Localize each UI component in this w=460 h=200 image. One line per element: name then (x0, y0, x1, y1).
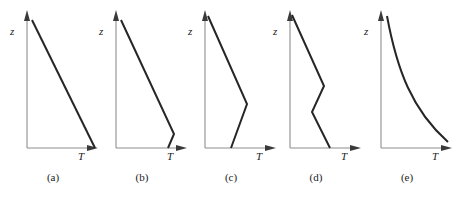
axis-label-z-d: z (273, 26, 277, 37)
z-axis-arrowhead-c (202, 10, 208, 21)
panel-caption-c: (c) (186, 172, 276, 183)
profile-curve-b (121, 20, 174, 148)
profile-curve-e (387, 16, 448, 142)
panel-d-plot (271, 0, 361, 200)
axis-label-t-a: T (78, 151, 84, 162)
panel-e-plot (362, 0, 452, 200)
z-axis-arrowhead-a (24, 10, 30, 21)
axis-label-z-e: z (364, 26, 368, 37)
z-axis-arrowhead-b (113, 10, 119, 21)
panel-caption-a: (a) (8, 172, 98, 183)
panel-b-plot (97, 0, 187, 200)
panel-caption-d: (d) (271, 172, 361, 183)
panel-e: z T (e) (362, 0, 452, 200)
z-axis-arrowhead-e (378, 10, 384, 21)
panel-caption-e: (e) (362, 172, 452, 183)
panel-b: z T (b) (97, 0, 187, 200)
profile-curve-c (208, 16, 247, 148)
t-axis-arrowhead-d (350, 145, 361, 151)
axis-label-t-b: T (167, 151, 173, 162)
axis-label-t-e: T (432, 151, 438, 162)
panel-a-plot (8, 0, 98, 200)
panel-caption-b: (b) (97, 172, 187, 183)
panel-d: z T (d) (271, 0, 361, 200)
panel-c-plot (186, 0, 276, 200)
axis-label-z-a: z (10, 26, 14, 37)
axis-label-t-d: T (341, 151, 347, 162)
profile-curve-a (32, 20, 95, 148)
panel-a: z T (a) (8, 0, 98, 200)
axis-label-z-b: z (99, 26, 103, 37)
t-axis-arrowhead-e (441, 145, 452, 151)
profile-curve-d (292, 15, 330, 148)
axis-label-z-c: z (188, 26, 192, 37)
profile-figure: z T (a) z T (b) z T (c) (0, 0, 460, 200)
axis-label-t-c: T (256, 151, 262, 162)
panel-c: z T (c) (186, 0, 276, 200)
